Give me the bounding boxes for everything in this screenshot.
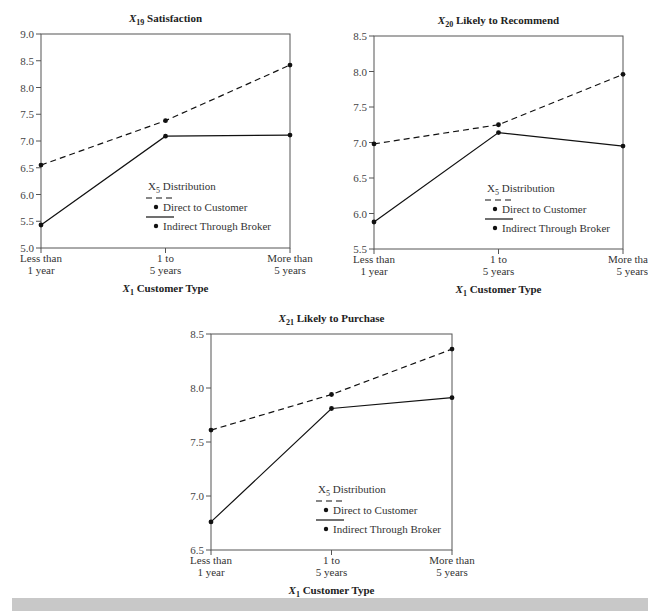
data-point bbox=[39, 163, 44, 168]
legend: X5 DistributionDirect to CustomerIndirec… bbox=[485, 182, 610, 234]
x-tick-label: More tha bbox=[608, 253, 648, 265]
bottom-bar bbox=[12, 598, 648, 611]
y-tick-label: 7.5 bbox=[190, 436, 204, 448]
y-tick-label: 8.5 bbox=[190, 328, 204, 340]
y-tick-label: 8.0 bbox=[190, 382, 204, 394]
y-tick-label: 7.0 bbox=[20, 135, 34, 147]
data-point bbox=[372, 142, 377, 147]
x-tick-label: 1 year bbox=[360, 265, 388, 277]
x-tick-label: 5 years bbox=[436, 566, 467, 578]
y-tick-label: 7.0 bbox=[353, 137, 367, 149]
legend-dot bbox=[493, 207, 497, 211]
x-axis-label: X1 Customer Type bbox=[455, 283, 542, 298]
data-point bbox=[163, 134, 168, 139]
data-point bbox=[288, 63, 293, 68]
y-tick-label: 6.0 bbox=[20, 189, 34, 201]
data-point bbox=[621, 72, 626, 77]
chart-3: X21 Likely to Purchase6.57.07.58.08.5Les… bbox=[190, 312, 475, 599]
legend-dot bbox=[154, 205, 158, 209]
chart-title: X19 Satisfaction bbox=[128, 12, 202, 27]
data-point bbox=[496, 130, 501, 135]
legend-direct-label: Direct to Customer bbox=[163, 201, 248, 213]
legend: X5 DistributionDirect to CustomerIndirec… bbox=[146, 180, 271, 232]
legend-title: X5 Distribution bbox=[148, 180, 216, 195]
x-tick-label: 5 years bbox=[483, 265, 514, 277]
y-tick-label: 9.0 bbox=[20, 28, 34, 40]
y-tick-label: 5.5 bbox=[20, 215, 34, 227]
y-tick-label: 7.5 bbox=[20, 108, 34, 120]
legend-dot bbox=[493, 226, 497, 230]
y-tick-label: 6.5 bbox=[353, 172, 367, 184]
legend-indirect-label: Indirect Through Broker bbox=[163, 220, 271, 232]
legend-title: X5 Distribution bbox=[487, 182, 555, 197]
chart-2: X20 Likely to Recommend5.56.06.57.07.58.… bbox=[353, 14, 648, 298]
x-tick-label: More than bbox=[267, 252, 313, 264]
x-tick-label: 1 to bbox=[490, 253, 507, 265]
y-tick-label: 8.0 bbox=[20, 82, 34, 94]
legend-indirect-label: Indirect Through Broker bbox=[502, 222, 610, 234]
x-tick-label: Less than bbox=[20, 252, 62, 264]
legend-direct-label: Direct to Customer bbox=[333, 504, 418, 516]
y-tick-label: 6.0 bbox=[353, 208, 367, 220]
data-point bbox=[209, 520, 214, 525]
series-line-direct bbox=[41, 65, 290, 165]
legend-title: X5 Distribution bbox=[318, 483, 386, 498]
legend: X5 DistributionDirect to CustomerIndirec… bbox=[316, 483, 441, 535]
charts-canvas: X19 Satisfaction5.05.56.06.57.07.58.08.5… bbox=[0, 0, 648, 611]
data-point bbox=[329, 392, 334, 397]
legend-dot bbox=[324, 527, 328, 531]
data-point bbox=[496, 122, 501, 127]
data-point bbox=[39, 223, 44, 228]
plot-frame bbox=[41, 34, 290, 248]
data-point bbox=[163, 118, 168, 123]
y-tick-label: 8.0 bbox=[353, 66, 367, 78]
x-tick-label: 1 year bbox=[27, 264, 55, 276]
x-tick-label: 1 year bbox=[197, 566, 225, 578]
x-tick-label: Less than bbox=[190, 554, 232, 566]
y-tick-label: 7.5 bbox=[353, 101, 367, 113]
x-axis-label: X1 Customer Type bbox=[122, 282, 209, 297]
x-tick-label: 5 years bbox=[316, 566, 347, 578]
x-tick-label: Less than bbox=[353, 253, 395, 265]
chart-1: X19 Satisfaction5.05.56.06.57.07.58.08.5… bbox=[20, 12, 313, 297]
legend-indirect-label: Indirect Through Broker bbox=[333, 523, 441, 535]
plot-frame bbox=[211, 334, 452, 550]
y-tick-label: 6.5 bbox=[20, 162, 34, 174]
data-point bbox=[450, 395, 455, 400]
series-line-direct bbox=[211, 349, 452, 430]
x-tick-label: More than bbox=[429, 554, 475, 566]
chart-title: X21 Likely to Purchase bbox=[278, 312, 385, 327]
data-point bbox=[329, 406, 334, 411]
legend-dot bbox=[324, 508, 328, 512]
x-tick-label: 1 to bbox=[323, 554, 340, 566]
x-tick-label: 5 years bbox=[617, 265, 648, 277]
x-axis-label: X1 Customer Type bbox=[288, 584, 375, 599]
y-tick-label: 8.5 bbox=[20, 55, 34, 67]
legend-direct-label: Direct to Customer bbox=[502, 203, 587, 215]
data-point bbox=[372, 220, 377, 225]
y-tick-label: 8.5 bbox=[353, 30, 367, 42]
data-point bbox=[621, 144, 626, 149]
data-point bbox=[450, 347, 455, 352]
legend-dot bbox=[154, 224, 158, 228]
x-tick-label: 1 to bbox=[157, 252, 174, 264]
x-tick-label: 5 years bbox=[274, 264, 305, 276]
data-point bbox=[288, 133, 293, 138]
y-tick-label: 7.0 bbox=[190, 490, 204, 502]
data-point bbox=[209, 428, 214, 433]
x-tick-label: 5 years bbox=[150, 264, 181, 276]
chart-title: X20 Likely to Recommend bbox=[437, 14, 559, 29]
